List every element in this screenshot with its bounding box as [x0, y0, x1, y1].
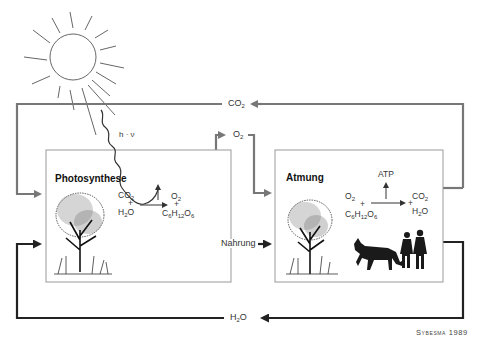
respiration-title: Atmung	[286, 172, 324, 183]
light-energy-label: h · ν	[119, 131, 135, 139]
at-reactant-o2: O2	[345, 192, 355, 202]
photosynthesis-title: Photosynthese	[55, 173, 127, 184]
ps-reactant-h2o: H2O	[118, 208, 134, 218]
respiration-atp-label: ATP	[378, 170, 394, 179]
source-credit: Sybesma 1989	[416, 328, 468, 337]
o2-flow-label: O2	[233, 130, 243, 140]
ps-product-glucose: C6H12O6	[162, 209, 194, 219]
at-reactant-glucose: C6H12O6	[345, 210, 377, 220]
at-reactant-plus: +	[360, 200, 365, 209]
at-product-co2: CO2	[412, 192, 428, 202]
h2o-flow-label: H2O	[230, 313, 247, 323]
at-product-h2o: H2O	[412, 207, 428, 217]
sun-icon	[24, 12, 124, 135]
co2-flow-label: CO2	[228, 99, 245, 109]
food-flow-label: Nahrung	[220, 239, 257, 248]
